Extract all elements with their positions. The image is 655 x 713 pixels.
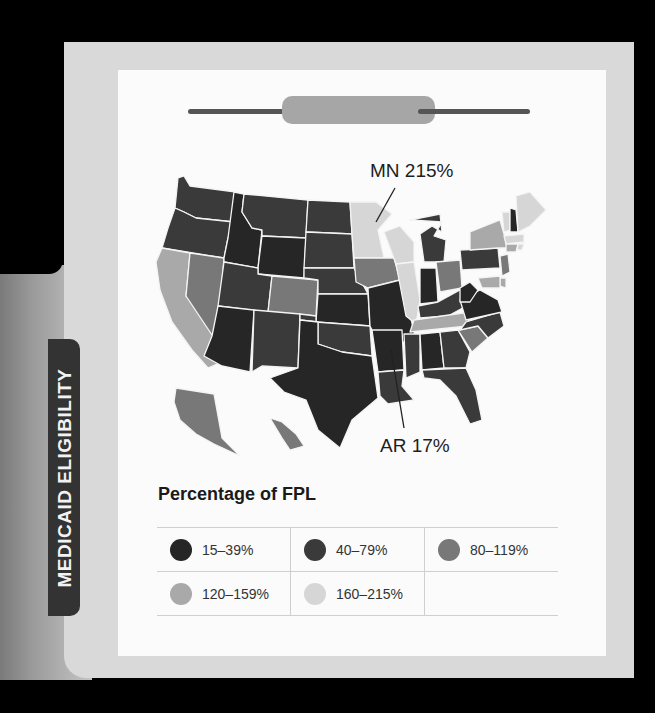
legend-label: 80–119% — [470, 542, 528, 558]
state-de — [500, 278, 506, 288]
legend-item: 120–159% — [157, 583, 290, 605]
legend-label: 40–79% — [336, 542, 387, 558]
annotation-mn: MN 215% — [370, 160, 453, 182]
state-co — [268, 276, 318, 316]
state-pa — [460, 248, 500, 270]
swatch-120-159 — [170, 583, 192, 605]
state-in — [420, 268, 438, 304]
legend-item: 40–79% — [291, 539, 424, 561]
state-ct — [506, 244, 518, 252]
legend-label: 120–159% — [202, 586, 269, 602]
state-ar — [372, 330, 404, 372]
state-mn — [350, 202, 392, 258]
legend-label: 15–39% — [202, 542, 253, 558]
swatch-40-79 — [304, 539, 326, 561]
annotation-ar: AR 17% — [380, 435, 450, 457]
state-ak — [174, 388, 240, 456]
legend-item: 160–215% — [291, 583, 424, 605]
state-ri — [517, 244, 524, 250]
state-mi — [410, 214, 446, 262]
state-wy — [258, 236, 306, 278]
state-nm — [252, 310, 300, 372]
state-nj — [500, 254, 510, 276]
swatch-160-215 — [304, 583, 326, 605]
swatch-15-39 — [170, 539, 192, 561]
state-ma — [504, 234, 524, 244]
state-me — [516, 192, 546, 232]
legend-item: 80–119% — [425, 539, 558, 561]
state-ms — [404, 334, 420, 378]
state-fl — [422, 368, 482, 424]
legend-table: 15–39% 40–79% 80–119% 120–159% 160–215% — [157, 527, 558, 616]
state-hi — [270, 418, 304, 450]
state-md — [478, 276, 500, 288]
state-ny — [470, 220, 508, 250]
legend-title: Percentage of FPL — [158, 484, 316, 505]
state-nd — [306, 200, 352, 234]
state-vt — [502, 212, 510, 232]
state-oh — [436, 260, 462, 292]
state-ks — [316, 294, 370, 326]
state-sd — [304, 232, 354, 268]
legend-label: 160–215% — [336, 586, 403, 602]
swatch-80-119 — [438, 539, 460, 561]
legend-item: 15–39% — [157, 539, 290, 561]
